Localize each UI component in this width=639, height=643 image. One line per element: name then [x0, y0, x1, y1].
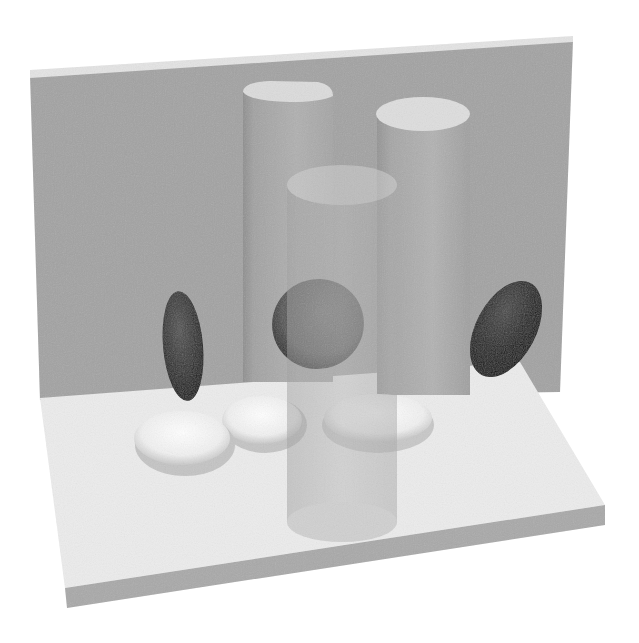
center-transparent-cylinder	[287, 165, 397, 542]
render-scene	[0, 0, 639, 643]
